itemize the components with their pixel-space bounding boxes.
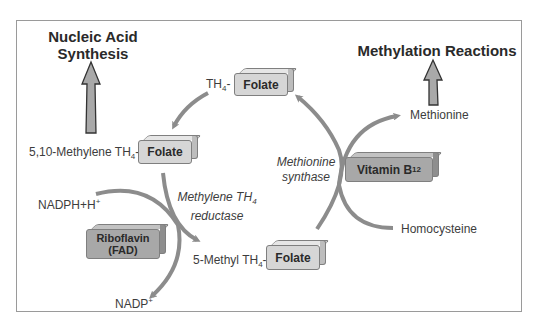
enzyme-methylene-th4-reductase: Methylene TH4 reductase bbox=[172, 190, 262, 224]
arrow-th4-to-methylene bbox=[174, 93, 208, 126]
label-methylene-th4: 5,10-Methylene TH4- bbox=[29, 145, 139, 161]
box-folate-bottom: Folate bbox=[266, 240, 326, 270]
label-nadph: NADPH+H+ bbox=[38, 197, 100, 212]
box-folate-top: Folate bbox=[234, 68, 294, 96]
label-5-methyl-th4: 5-Methyl TH4- bbox=[193, 253, 267, 269]
label-homocysteine: Homocysteine bbox=[401, 222, 477, 236]
title-nucleic-acid-synthesis: Nucleic Acid Synthesis bbox=[43, 28, 143, 62]
box-folate-left: Folate bbox=[138, 135, 198, 164]
enzyme-methionine-synthase: Methionine synthase bbox=[270, 155, 342, 185]
label-methionine: Methionine bbox=[410, 108, 469, 122]
up-arrow-nucleic-acid bbox=[82, 62, 100, 133]
box-riboflavin-fad: Riboflavin (FAD) bbox=[86, 224, 166, 259]
title-methylation-reactions: Methylation Reactions bbox=[352, 42, 522, 59]
box-vitamin-b12: Vitamin B12 bbox=[345, 152, 439, 182]
up-arrow-methylation bbox=[424, 60, 442, 105]
label-nadp: NADP+ bbox=[115, 296, 153, 311]
label-th4: TH4- bbox=[206, 77, 230, 93]
